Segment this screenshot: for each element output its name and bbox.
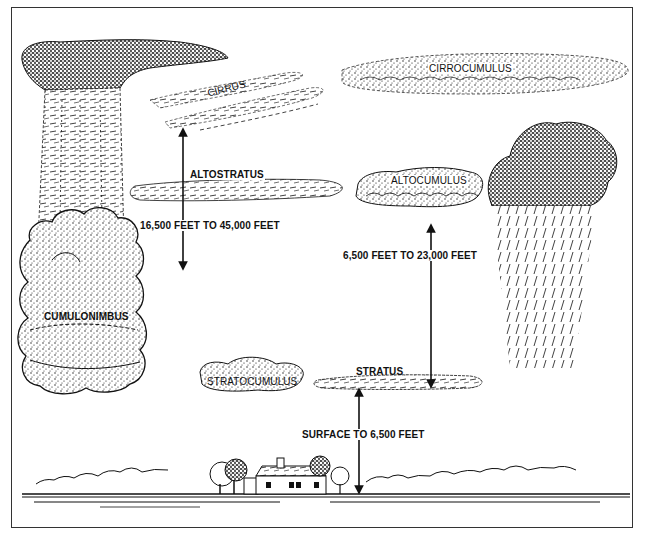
label-high-altitude-range: 16,500 FEET TO 45,000 FEET [139,220,281,231]
label-stratus: STRATUS [356,366,403,377]
altocumulus-illustration [356,168,483,207]
label-low-altitude-range: SURFACE TO 6,500 FEET [301,429,426,440]
label-middle-altitude-range: 6,500 FEET TO 23,000 FEET [342,250,478,261]
label-stratocumulus: STRATOCUMULUS [207,376,297,387]
house-illustration [210,456,349,494]
label-cumulonimbus: CUMULONIMBUS [43,311,130,322]
label-altocumulus: ALTOCUMULUS [390,175,468,186]
diagram-illustration [0,0,646,540]
rain-cloud-illustration [488,122,617,368]
label-cirrocumulus: CIRROCUMULUS [428,63,513,74]
label-altostratus: ALTOSTRATUS [189,169,265,180]
stratus-illustration [314,375,482,390]
altostratus-illustration [130,179,342,201]
cloud-diagram: CIRRUS CIRROCUMULUS ALTOSTRATUS ALTOCUMU… [0,0,646,540]
